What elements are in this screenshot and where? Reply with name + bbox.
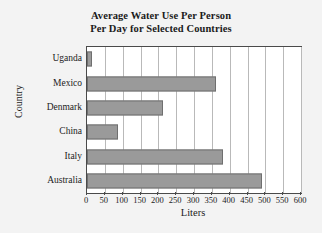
x-tick-label-50: 50 [100,195,109,205]
x-tick-label-300: 300 [187,195,200,205]
bar [87,149,223,164]
x-tick-label-600: 600 [294,195,307,205]
bar-series [87,47,301,193]
chart-title: Average Water Use Per Person Per Day for… [0,10,322,35]
y-axis-label: Country [13,62,24,142]
chart-title-line-1: Average Water Use Per Person [0,10,322,23]
y-tick-label-denmark: Denmark [24,102,82,112]
plot-area [86,46,302,194]
x-tick-label-250: 250 [169,195,182,205]
bar [87,100,163,115]
x-tick-label-500: 500 [258,195,271,205]
bar [87,76,216,91]
bar [87,52,92,67]
x-axis-tick-labels: 050100150200250300350400450500550600 [86,194,300,206]
y-tick-label-china: China [24,126,82,136]
x-tick-label-400: 400 [222,195,235,205]
x-axis-label: Liters [86,207,300,218]
chart-title-line-2: Per Day for Selected Countries [0,23,322,36]
bar [87,125,118,140]
y-tick-label-uganda: Uganda [24,53,82,63]
x-tick-label-550: 550 [276,195,289,205]
x-tick-label-450: 450 [240,195,253,205]
y-tick-label-italy: Italy [24,151,82,161]
y-axis-tick-labels: UgandaMexicoDenmarkChinaItalyAustralia [24,46,82,192]
x-tick-label-0: 0 [84,195,88,205]
bar-chart-figure: Average Water Use Per Person Per Day for… [0,0,322,233]
y-tick-label-mexico: Mexico [24,78,82,88]
y-tick-label-australia: Australia [24,175,82,185]
x-tick-label-100: 100 [115,195,128,205]
bar [87,173,262,188]
x-tick-label-150: 150 [133,195,146,205]
x-tick-label-200: 200 [151,195,164,205]
gridline [301,47,302,193]
x-tick-label-350: 350 [204,195,217,205]
